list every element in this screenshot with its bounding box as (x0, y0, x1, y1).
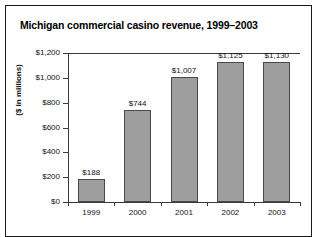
chart-title: Michigan commercial casino revenue, 1999… (20, 19, 258, 31)
bar-value-label: $744 (113, 99, 163, 108)
x-tick (114, 202, 115, 206)
x-axis-label: 2000 (113, 208, 163, 217)
y-axis-title: ($ in millions) (14, 50, 23, 130)
y-tick: $400 (63, 152, 68, 153)
y-tick-label: $800 (42, 98, 60, 107)
x-axis-line (68, 202, 300, 203)
x-tick (300, 202, 301, 206)
y-tick-label: $1,200 (36, 48, 60, 57)
bar-value-label: $1,130 (252, 51, 302, 60)
y-tick: $800 (63, 103, 68, 104)
bar (263, 62, 290, 202)
bar-value-label: $1,007 (159, 66, 209, 75)
bar (171, 77, 198, 202)
bar-value-label: $188 (66, 168, 116, 177)
figure-frame: Michigan commercial casino revenue, 1999… (5, 5, 312, 231)
bar (124, 110, 151, 202)
bar (217, 62, 244, 202)
x-tick (68, 202, 69, 206)
chart-figure: Michigan commercial casino revenue, 1999… (0, 0, 335, 231)
x-axis-label: 1999 (66, 208, 116, 217)
y-tick-label: $1,000 (36, 73, 60, 82)
y-tick: $1,200 (63, 53, 68, 54)
bar-value-label: $1,125 (205, 51, 255, 60)
y-tick: $1,000 (63, 78, 68, 79)
x-axis-label: 2001 (159, 208, 209, 217)
y-tick-label: $200 (42, 172, 60, 181)
y-axis-line (68, 53, 69, 202)
y-tick: $200 (63, 177, 68, 178)
x-tick (254, 202, 255, 206)
bar (78, 179, 105, 202)
y-tick-label: $400 (42, 147, 60, 156)
y-tick-label: $600 (42, 123, 60, 132)
y-tick: $600 (63, 128, 68, 129)
x-axis-label: 2003 (252, 208, 302, 217)
x-axis-label: 2002 (205, 208, 255, 217)
x-tick (207, 202, 208, 206)
x-tick (161, 202, 162, 206)
y-tick-label: $0 (51, 197, 60, 206)
plot-area: $0$200$400$600$800$1,000$1,200 $188$744$… (68, 53, 300, 202)
